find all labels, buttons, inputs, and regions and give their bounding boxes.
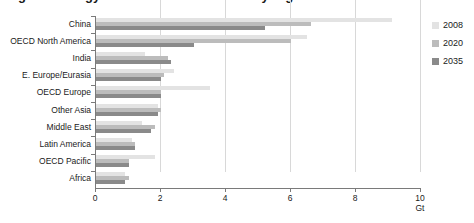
category-label: India [3,54,91,63]
category-label: OECD North America [3,37,91,46]
bar [96,112,158,116]
category-label: Other Asia [3,106,91,115]
bar-chart: ChinaOECD North AmericaIndiaE. Europe/Eu… [0,0,474,223]
y-tick [91,33,95,34]
bar [96,60,171,64]
x-tick [290,188,291,192]
legend-swatch [432,40,439,47]
legend-item[interactable]: 2020 [432,36,474,54]
bar [96,180,125,184]
x-axis-unit-label: Gt [408,203,432,213]
category-label: Middle East [3,123,91,132]
category-label: E. Europe/Eurasia [3,71,91,80]
y-tick [91,154,95,155]
bar [96,146,135,150]
category-label: OECD Pacific [3,157,91,166]
category-label: Africa [3,174,91,183]
legend-label: 2020 [443,36,463,51]
x-tick-label: 8 [345,193,365,203]
gridline [420,0,421,172]
bar [96,26,265,30]
x-tick-label: 2 [150,193,170,203]
legend-item[interactable]: 2035 [432,54,474,72]
x-axis-line [95,188,421,189]
legend-swatch [432,22,439,29]
y-tick [91,102,95,103]
x-tick [95,188,96,192]
bar [96,129,151,133]
y-tick [91,171,95,172]
x-tick [355,188,356,192]
bar [96,94,161,98]
category-label: China [3,20,91,29]
x-tick [160,188,161,192]
x-tick-label: 10 [410,193,430,203]
legend-label: 2035 [443,54,463,69]
x-tick [225,188,226,192]
gridline [290,0,291,172]
y-tick [91,50,95,51]
x-tick-label: 4 [215,193,235,203]
category-label: Latin America [3,140,91,149]
y-tick [91,85,95,86]
y-tick [91,16,95,17]
legend-item[interactable]: 2008 [432,18,474,36]
legend-swatch [432,58,439,65]
legend-label: 2008 [443,18,463,33]
category-label: OECD Europe [3,88,91,97]
x-tick-label: 6 [280,193,300,203]
y-tick [91,68,95,69]
gridline [355,0,356,172]
y-tick [91,136,95,137]
bar [96,43,194,47]
y-tick [91,119,95,120]
bar [96,77,161,81]
x-tick [420,188,421,192]
legend: 200820202035 [432,18,474,72]
bar [96,163,129,167]
x-tick-label: 0 [85,193,105,203]
